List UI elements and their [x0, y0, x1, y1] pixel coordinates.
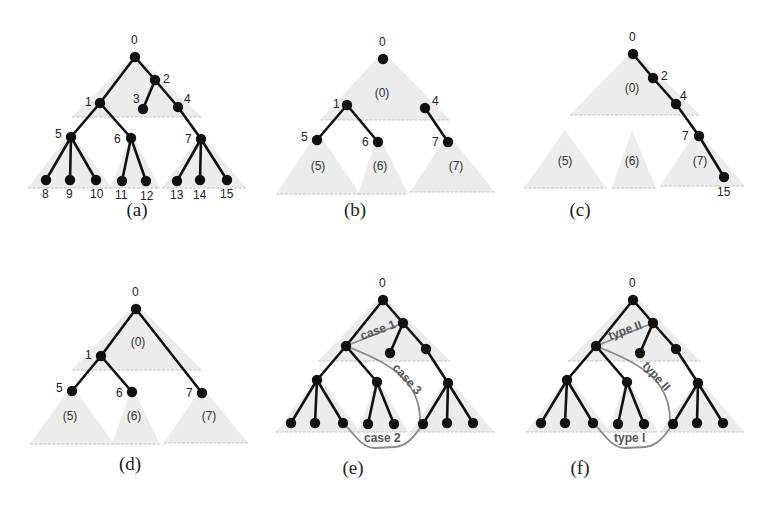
subtree-label: (7) [449, 159, 464, 173]
subtree-label: (5) [311, 159, 326, 173]
subtree-label: (5) [558, 154, 573, 168]
node-label: 0 [379, 35, 386, 49]
tree-node-2 [398, 318, 408, 328]
node-label: 0 [629, 276, 636, 290]
tree-node-15 [468, 418, 478, 428]
tree-edge [70, 137, 71, 180]
tree-node-8 [286, 418, 296, 428]
subtree-label: (0) [131, 335, 146, 349]
tree-node-6 [373, 137, 383, 147]
tree-node-11 [613, 419, 623, 429]
panel-caption: (a) [126, 199, 147, 221]
case-2-label: case 2 [364, 431, 401, 445]
tree-node-0 [628, 295, 638, 305]
node-label: 4 [184, 92, 191, 106]
type-ii-curve-label: type II [640, 359, 674, 394]
node-label: 7 [186, 386, 193, 400]
node-label: 9 [66, 187, 73, 201]
tree-node-7 [443, 137, 453, 147]
tree-node-5 [312, 375, 322, 385]
node-label: 6 [362, 135, 369, 149]
node-label: 2 [163, 72, 170, 86]
node-label: 15 [220, 187, 234, 201]
subtree-label: (6) [625, 154, 640, 168]
node-label: 0 [131, 33, 138, 47]
node-label: 14 [193, 188, 207, 202]
subtree-label: (0) [375, 86, 390, 100]
type-i-label: type I [614, 431, 645, 445]
panel-caption: (f) [571, 457, 590, 479]
panel-e: case 1case 3case 20(e) [276, 276, 494, 479]
node-label: 5 [56, 381, 63, 395]
tree-node-14 [692, 418, 702, 428]
panel-b: (0)(5)(6)(7)014567(b) [276, 35, 495, 221]
tree-node-1 [95, 98, 105, 108]
tree-figure: 0123456789101112131415(a)(0)(5)(6)(7)014… [0, 0, 761, 527]
node-label: 0 [629, 30, 636, 44]
tree-node-12 [141, 176, 151, 186]
node-label: 3 [133, 92, 140, 106]
subtree-label: (7) [202, 409, 217, 423]
tree-node-4 [671, 344, 681, 354]
tree-edge [200, 139, 201, 180]
node-label: 1 [85, 95, 92, 109]
tree-node-6 [127, 387, 137, 397]
node-label: 1 [333, 97, 340, 111]
node-label: 15 [717, 185, 731, 199]
node-label: 2 [661, 69, 668, 83]
case-3-label: case 3 [390, 361, 425, 398]
tree-node-6 [372, 377, 382, 387]
tree-node-12 [389, 419, 399, 429]
tree-node-1 [341, 341, 351, 351]
panel-caption: (d) [119, 453, 141, 475]
tree-node-11 [363, 419, 373, 429]
tree-node-9 [65, 175, 75, 185]
tree-edge [697, 383, 698, 423]
tree-node-1 [342, 100, 352, 110]
tree-node-9 [310, 418, 320, 428]
tree-node-0 [628, 49, 638, 59]
node-label: 7 [682, 129, 689, 143]
tree-node-5 [312, 135, 322, 145]
tree-node-15 [222, 175, 232, 185]
tree-node-8 [536, 418, 546, 428]
node-label: 7 [432, 135, 439, 149]
tree-node-7 [196, 134, 206, 144]
panel-d: (0)(5)(6)(7)01567(d) [30, 285, 248, 475]
tree-node-3 [635, 348, 645, 358]
tree-node-15 [719, 172, 729, 182]
tree-node-2 [648, 73, 658, 83]
tree-node-5 [67, 386, 77, 396]
tree-node-0 [130, 52, 140, 62]
tree-node-9 [560, 418, 570, 428]
tree-node-5 [66, 132, 76, 142]
node-label: 0 [379, 276, 386, 290]
tree-node-10 [91, 175, 101, 185]
node-label: 8 [42, 187, 49, 201]
tree-node-8 [41, 175, 51, 185]
tree-node-4 [420, 103, 430, 113]
tree-node-1 [591, 341, 601, 351]
node-label: 1 [85, 348, 92, 362]
node-label: 7 [185, 132, 192, 146]
subtree-label: (5) [63, 409, 78, 423]
node-label: 6 [114, 132, 121, 146]
tree-node-12 [639, 419, 649, 429]
subtree-label: (6) [127, 409, 142, 423]
node-label: 4 [680, 89, 687, 103]
tree-node-14 [442, 418, 452, 428]
subtree-label: (6) [373, 159, 388, 173]
node-label: 5 [301, 130, 308, 144]
tree-node-10 [588, 418, 598, 428]
node-label: 4 [432, 94, 439, 108]
tree-node-7 [443, 378, 453, 388]
tree-node-3 [385, 348, 395, 358]
tree-node-5 [562, 375, 572, 385]
tree-node-7 [197, 388, 207, 398]
panel-caption: (b) [344, 199, 366, 221]
node-label: 5 [55, 127, 62, 141]
tree-node-1 [96, 351, 106, 361]
tree-node-2 [150, 75, 160, 85]
tree-node-10 [338, 418, 348, 428]
subtree-label: (0) [625, 81, 640, 95]
